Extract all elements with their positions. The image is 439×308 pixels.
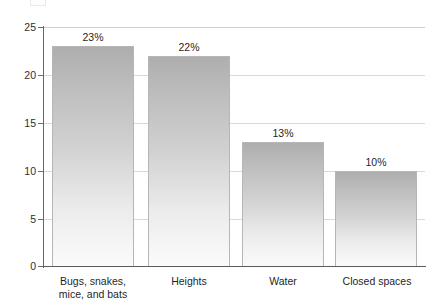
bar-bugs-snakes-mice-and-bats[interactable]: [52, 46, 134, 267]
category-label-closed-spaces: Closed spaces: [327, 275, 427, 288]
y-tick-label-10: 10: [6, 166, 36, 177]
bar-heights[interactable]: [148, 56, 230, 267]
value-label-bugs-snakes-mice-and-bats: 23%: [52, 32, 134, 43]
y-tick-label-0: 0: [6, 261, 36, 272]
y-axis-tick-labels: 25 20 15 10 5 0: [0, 0, 36, 308]
y-axis-line: [43, 26, 44, 268]
value-label-water: 13%: [242, 128, 324, 139]
y-tick-label-25: 25: [6, 22, 36, 33]
category-label-bugs-snakes-mice-and-bats: Bugs, snakes, mice, and bats: [38, 275, 148, 300]
x-axis-line: [43, 266, 426, 267]
bar-chart: 25 20 15 10 5 0 23% 22% 13% 10% Bugs, sn…: [0, 0, 439, 308]
y-tick-label-5: 5: [6, 214, 36, 225]
gridline-25: [44, 27, 425, 28]
plot-area: [44, 27, 425, 267]
category-label-heights: Heights: [148, 275, 230, 288]
bar-water[interactable]: [242, 142, 324, 267]
value-label-closed-spaces: 10%: [335, 157, 417, 168]
category-label-water: Water: [242, 275, 324, 288]
y-tick-label-20: 20: [6, 70, 36, 81]
value-label-heights: 22%: [148, 42, 230, 53]
y-tick-label-15: 15: [6, 118, 36, 129]
bar-closed-spaces[interactable]: [335, 171, 417, 267]
